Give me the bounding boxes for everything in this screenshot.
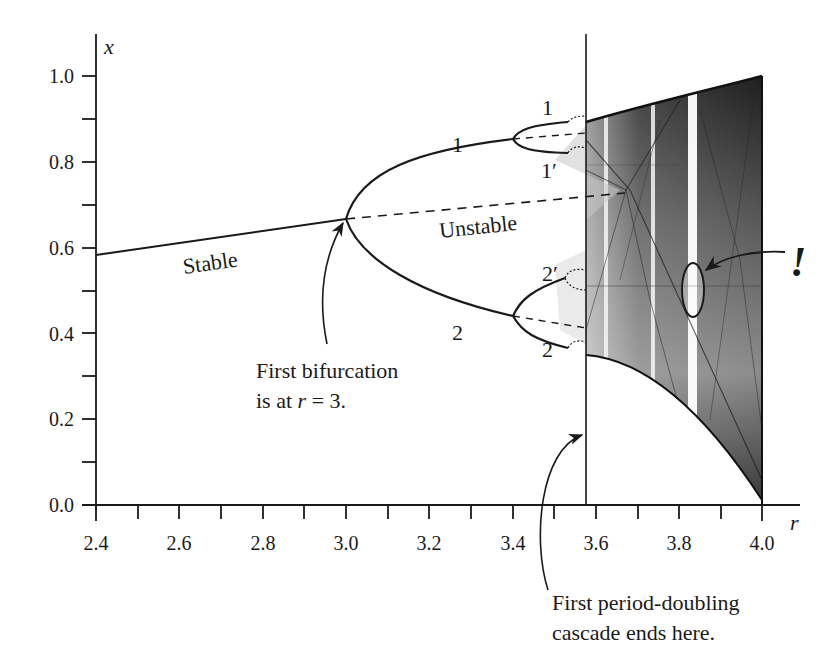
branch-1b-label: 1 [542,95,553,120]
x-tick-label: 3.2 [417,532,442,554]
y-tick-label: 0.8 [49,151,74,173]
branch-2b-label: 2 [542,337,553,362]
x-tick-label: 3.4 [501,532,526,554]
stable-label: Stable [181,247,239,279]
arrow-icon [322,223,343,344]
first-bifurcation-annotation: First bifurcation is at r = 3. [256,223,398,413]
y-axis: x 0.0 0.2 0.4 0.6 0.8 1.0 [49,34,114,516]
bifurcation-chart: x 0.0 0.2 0.4 0.6 0.8 1.0 [0,0,829,672]
cascade-end-annotation: First period-doubling cascade ends here. [540,435,739,645]
y-tick-label: 0.4 [49,323,74,345]
branch-1-label: 1 [452,132,463,157]
branch-1-prime-label: 1′ [541,158,557,183]
x-axis-label: r [790,510,799,535]
y-tick-label: 1.0 [49,65,74,87]
period-2-upper-branch [346,139,513,219]
cascade-text-line1: First period-doubling [552,590,740,615]
y-tick-label: 0.6 [49,237,74,259]
arrow-icon [540,435,582,590]
y-tick-labels: 0.0 0.2 0.4 0.6 0.8 1.0 [49,65,74,516]
x-axis: r 2.4 2.6 2.8 3.0 3.2 3.4 3.6 3.8 4.0 [82,505,800,554]
branch-2-label: 2 [452,320,463,345]
unstable-label: Unstable [438,210,518,243]
bifurcation-curves [96,116,625,348]
cascade-text-line2: cascade ends here. [552,620,715,645]
y-tick-label: 0.0 [49,494,74,516]
exclamation-mark-icon: ! [790,239,806,285]
branch-2-prime-label: 2′ [542,261,558,286]
x-tick-label: 3.0 [334,532,359,554]
x-tick-label: 4.0 [750,532,775,554]
x-tick-labels: 2.4 2.6 2.8 3.0 3.2 3.4 3.6 3.8 4.0 [84,532,775,554]
x-tick-label: 2.6 [167,532,192,554]
period-4-branch-1-prime [513,139,568,153]
first-bifurcation-text-line1: First bifurcation [256,358,398,383]
x-tick-label: 3.8 [667,532,692,554]
x-tick-label: 2.4 [84,532,109,554]
curve-labels: Stable Unstable 1 2 1 1′ 2′ 2 [181,95,558,362]
first-bifurcation-text-line2: is at r = 3. [256,388,346,413]
x-tick-label: 2.8 [251,532,276,554]
y-tick-label: 0.2 [49,408,74,430]
x-tick-label: 3.6 [584,532,609,554]
y-axis-label: x [103,34,114,59]
highlight-ellipse [682,263,704,317]
